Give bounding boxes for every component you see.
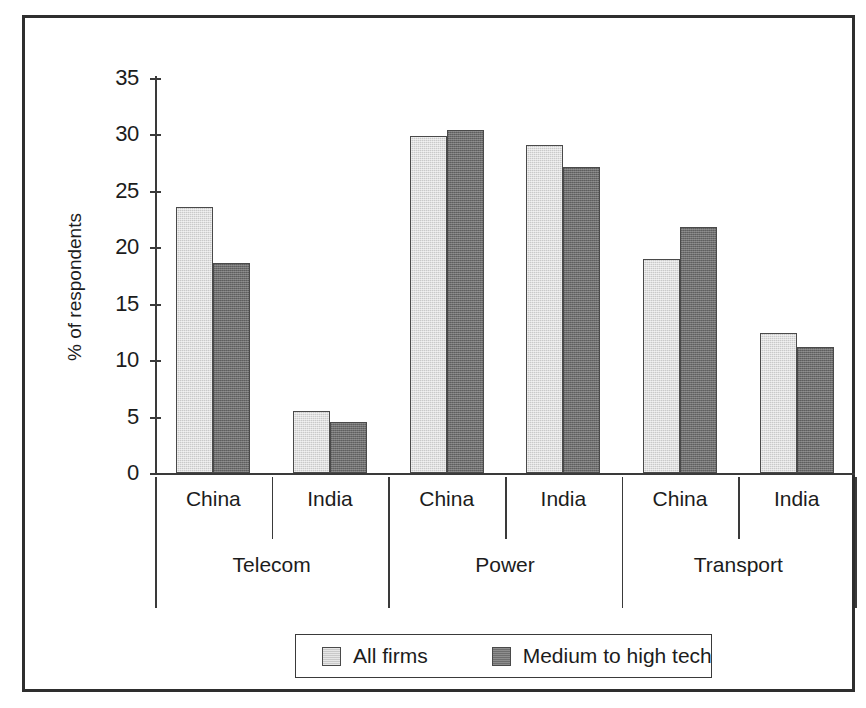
chart-legend: All firms Medium to high tech	[295, 634, 712, 678]
legend-label-medium-to-high-tech: Medium to high tech	[523, 644, 712, 668]
country-divider	[505, 477, 507, 539]
chart-page: % of respondents 35302520151050 ChinaInd…	[0, 0, 866, 708]
bar-all-firms	[760, 333, 797, 473]
group-label: Telecom	[155, 553, 388, 577]
bar-medium-to-high-tech	[447, 130, 484, 473]
bar-group	[738, 78, 855, 473]
bar-medium-to-high-tech	[680, 227, 717, 473]
y-tick-label: 15	[93, 293, 139, 315]
bar-medium-to-high-tech	[330, 422, 367, 473]
y-axis-ticks: 35302520151050	[83, 78, 139, 473]
y-axis-title-wrap: % of respondents	[77, 78, 78, 473]
category-label: India	[272, 487, 389, 511]
group-divider	[388, 477, 390, 608]
legend-item-medium-to-high-tech: Medium to high tech	[492, 644, 712, 668]
legend-item-all-firms: All firms	[322, 644, 428, 668]
country-divider	[738, 477, 740, 539]
bar-all-firms	[176, 207, 213, 473]
bar-all-firms	[643, 259, 680, 473]
chart-frame: % of respondents 35302520151050 ChinaInd…	[22, 15, 855, 692]
y-tick-label: 10	[93, 349, 139, 371]
y-tick-label: 25	[93, 180, 139, 202]
category-label: China	[622, 487, 739, 511]
bar-medium-to-high-tech	[797, 347, 834, 473]
group-divider	[855, 477, 857, 608]
bar-group	[155, 78, 272, 473]
bar-medium-to-high-tech	[213, 263, 250, 473]
bar-group	[388, 78, 505, 473]
bar-all-firms	[293, 411, 330, 473]
bar-group	[272, 78, 389, 473]
group-divider	[155, 477, 157, 608]
y-tick-label: 30	[93, 123, 139, 145]
country-divider	[272, 477, 274, 539]
bar-group	[505, 78, 622, 473]
bar-group	[622, 78, 739, 473]
category-axis: ChinaIndiaChinaIndiaChinaIndiaTelecomPow…	[155, 475, 855, 608]
bar-medium-to-high-tech	[563, 167, 600, 473]
legend-label-all-firms: All firms	[353, 644, 428, 668]
category-label: India	[738, 487, 855, 511]
category-label: China	[388, 487, 505, 511]
category-label: China	[155, 487, 272, 511]
group-divider	[622, 477, 624, 608]
y-tick-label: 5	[93, 406, 139, 428]
plot-area	[155, 78, 855, 473]
legend-swatch-light-icon	[322, 647, 341, 666]
bar-all-firms	[410, 136, 447, 473]
y-tick-label: 35	[93, 67, 139, 89]
category-label: India	[505, 487, 622, 511]
bar-all-firms	[526, 145, 563, 473]
y-tick-label: 0	[93, 462, 139, 484]
legend-swatch-dark-icon	[492, 647, 511, 666]
group-label: Power	[388, 553, 621, 577]
group-label: Transport	[622, 553, 855, 577]
y-tick-label: 20	[93, 236, 139, 258]
